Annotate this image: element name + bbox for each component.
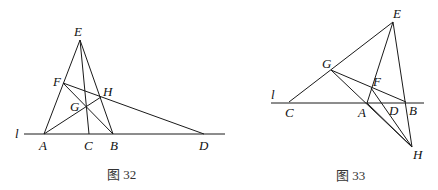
label-H: H	[412, 147, 423, 162]
label-C: C	[285, 105, 294, 120]
figure-32: l E F H G A C B D 图 32	[15, 24, 225, 182]
label-C: C	[84, 138, 93, 153]
geometry-figures: l E F H G A C B D 图 32 l E G F C A D B H…	[0, 0, 438, 190]
label-B: B	[110, 138, 118, 153]
label-F: F	[52, 74, 62, 89]
label-G: G	[70, 99, 80, 114]
label-A: A	[38, 138, 47, 153]
label-E: E	[392, 6, 401, 21]
caption-fig33: 图 33	[336, 168, 365, 183]
figure-33: l E G F C A D B H 图 33	[271, 6, 424, 183]
label-A: A	[357, 105, 366, 120]
label-F: F	[372, 74, 382, 89]
label-B: B	[409, 103, 417, 118]
label-G: G	[322, 56, 332, 71]
label-H: H	[102, 84, 113, 99]
caption-fig32: 图 32	[107, 167, 136, 182]
label-D: D	[388, 103, 399, 118]
label-E: E	[73, 24, 82, 39]
label-D: D	[198, 138, 209, 153]
label-l: l	[271, 87, 275, 102]
label-l: l	[15, 126, 19, 141]
segment-EH	[393, 22, 412, 147]
